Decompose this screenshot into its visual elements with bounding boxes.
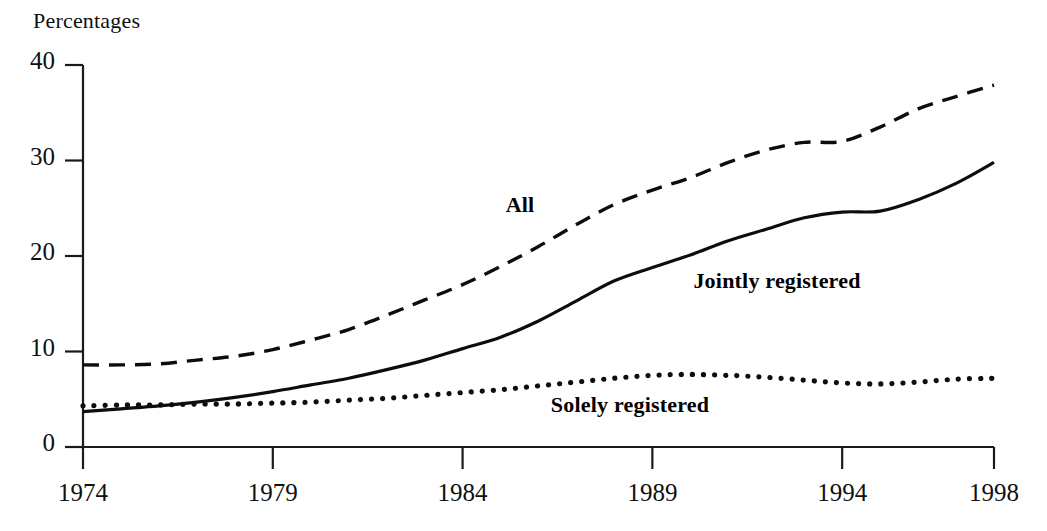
series-line-dashed <box>83 85 994 365</box>
y-tick-label: 10 <box>0 334 55 362</box>
x-tick-label: 1998 <box>934 479 1047 507</box>
series-label: Jointly registered <box>693 268 860 294</box>
series-label: All <box>506 192 535 218</box>
y-tick-label: 30 <box>0 143 55 171</box>
x-tick-label: 1979 <box>213 479 333 507</box>
series-label: Solely registered <box>551 392 709 418</box>
x-tick-label: 1989 <box>592 479 712 507</box>
series-line-dotted <box>83 374 994 406</box>
x-tick-label: 1994 <box>782 479 902 507</box>
y-tick-label: 20 <box>0 238 55 266</box>
x-tick-label: 1974 <box>23 479 143 507</box>
y-tick-label: 40 <box>0 47 55 75</box>
y-tick-label: 0 <box>0 429 55 457</box>
chart-canvas <box>0 0 1047 531</box>
line-chart: Percentages 0102030401974197919841989199… <box>0 0 1047 531</box>
x-tick-label: 1984 <box>403 479 523 507</box>
